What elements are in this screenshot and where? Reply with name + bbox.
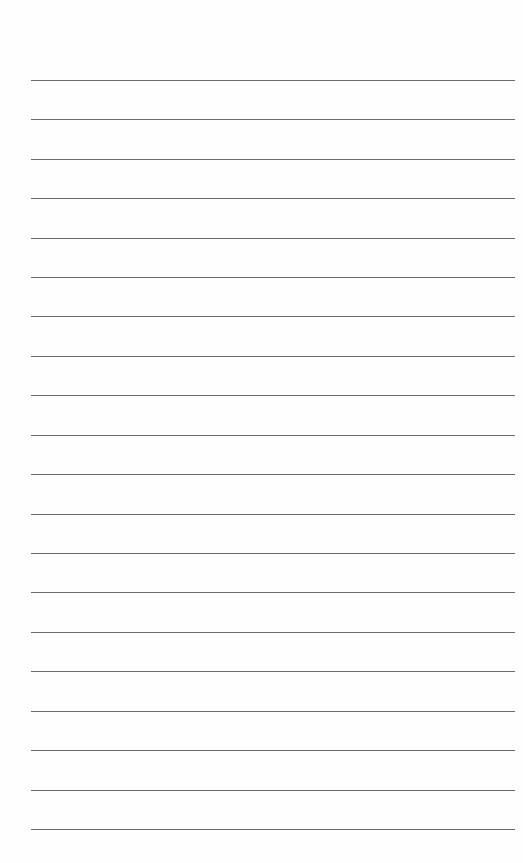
lined-paper-page: [0, 0, 523, 863]
ruled-line: [31, 119, 515, 120]
ruled-line: [31, 750, 515, 751]
ruled-line: [31, 514, 515, 515]
ruled-line: [31, 316, 515, 317]
ruled-line: [31, 829, 515, 830]
ruled-line: [31, 671, 515, 672]
ruled-line: [31, 711, 515, 712]
ruled-line: [31, 790, 515, 791]
ruled-line: [31, 592, 515, 593]
ruled-line: [31, 632, 515, 633]
ruled-line: [31, 198, 515, 199]
ruled-line: [31, 356, 515, 357]
ruled-line: [31, 277, 515, 278]
ruled-line: [31, 395, 515, 396]
ruled-line: [31, 553, 515, 554]
ruled-line: [31, 159, 515, 160]
ruled-line: [31, 80, 515, 81]
ruled-line: [31, 435, 515, 436]
ruled-line: [31, 474, 515, 475]
ruled-line: [31, 238, 515, 239]
